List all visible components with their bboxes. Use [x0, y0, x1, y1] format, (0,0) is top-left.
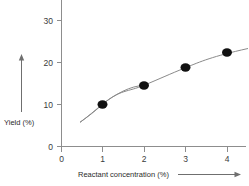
data-point-2 — [139, 81, 149, 89]
chart-canvas: 30 20 10 0 0 1 2 3 4 — [0, 0, 249, 186]
x-axis-label-group: Reactant concentration (%) — [78, 170, 241, 179]
data-point-3 — [181, 63, 191, 71]
trend-curve — [80, 49, 248, 123]
x-tick-label-0: 0 — [59, 154, 64, 164]
x-tick-label-4: 4 — [225, 154, 230, 164]
x-axis-tick-labels: 0 1 2 3 4 — [59, 154, 230, 164]
up-arrow-icon — [19, 54, 24, 61]
y-axis-label: Yield (%) — [4, 118, 35, 127]
y-axis-label-group: Yield (%) — [4, 54, 35, 127]
data-point-4 — [222, 48, 232, 56]
x-tick-label-2: 2 — [142, 154, 147, 164]
y-axis-tick-labels: 30 20 10 0 — [44, 16, 54, 152]
y-tick-label-30: 30 — [44, 16, 54, 26]
y-axis-ticks — [57, 21, 62, 147]
trend-curve-segment-a — [80, 86, 144, 123]
y-tick-label-10: 10 — [44, 100, 54, 110]
x-axis-label: Reactant concentration (%) — [78, 170, 169, 179]
y-tick-label-20: 20 — [44, 58, 54, 68]
chart-figure: 30 20 10 0 0 1 2 3 4 — [0, 0, 249, 186]
data-point-1 — [98, 100, 108, 108]
x-axis-ticks — [62, 147, 228, 153]
right-arrow-icon — [235, 172, 242, 177]
x-tick-label-3: 3 — [183, 154, 188, 164]
y-tick-label-0: 0 — [48, 142, 53, 152]
x-tick-label-1: 1 — [100, 154, 105, 164]
